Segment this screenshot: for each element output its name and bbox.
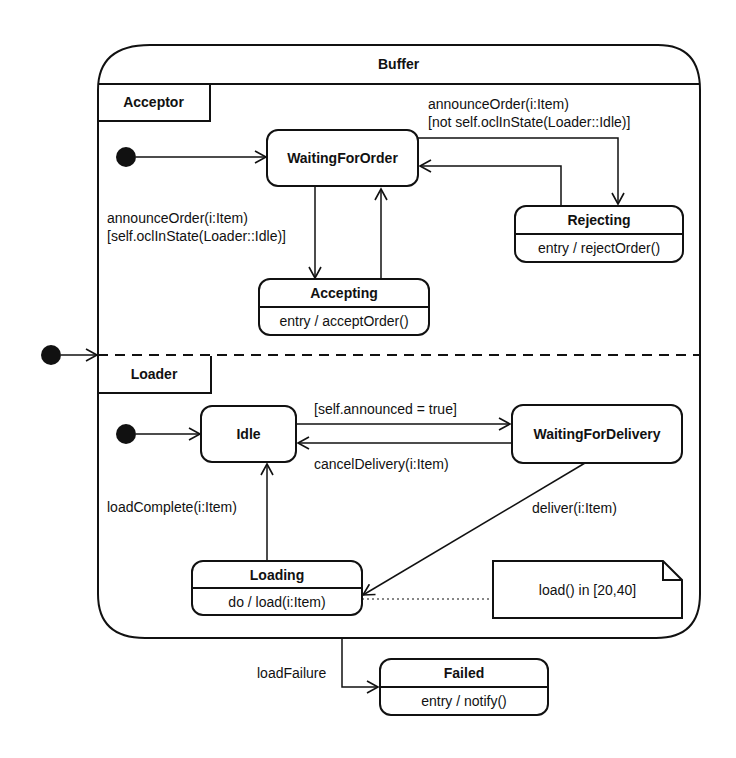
state-name: Loading [193, 562, 361, 587]
state-loading[interactable]: Loading do / load(i:Item) [191, 560, 363, 616]
transition-label-announced: [self.announced = true] [314, 400, 457, 418]
initial-loader [116, 424, 136, 444]
state-name: Accepting [260, 280, 428, 306]
state-name: WaitingForOrder [268, 131, 417, 185]
state-failed[interactable]: Failed entry / notify() [379, 658, 549, 716]
note-text: load() in [20,40] [493, 561, 682, 618]
initial-outer [41, 345, 61, 365]
state-rejecting[interactable]: Rejecting entry / rejectOrder() [514, 205, 684, 263]
state-name: WaitingForDelivery [513, 406, 681, 462]
transition-label-accept-event: announceOrder(i:Item) [107, 209, 248, 227]
transition-label-load-complete: loadComplete(i:Item) [107, 498, 237, 516]
transition-label-cancel-delivery: cancelDelivery(i:Item) [314, 455, 449, 473]
state-name: Idle [202, 407, 295, 461]
state-name: Failed [381, 660, 547, 686]
transition-label-accept-guard: [self.oclInState(Loader::Idle)] [107, 227, 286, 245]
state-do-activity: do / load(i:Item) [193, 587, 361, 614]
region-tab-loader: Loader [98, 356, 212, 394]
state-entry-activity: entry / notify() [381, 686, 547, 714]
buffer-title: Buffer [378, 55, 419, 73]
region-tab-acceptor: Acceptor [98, 84, 211, 122]
transition-label-deliver: deliver(i:Item) [532, 499, 617, 517]
state-waiting-for-order[interactable]: WaitingForOrder [266, 129, 419, 187]
state-waiting-for-delivery[interactable]: WaitingForDelivery [511, 404, 683, 464]
transition-label-reject-event: announceOrder(i:Item) [428, 95, 569, 113]
transition-label-load-failure: loadFailure [257, 664, 326, 682]
state-name: Rejecting [516, 207, 682, 233]
initial-acceptor [116, 147, 136, 167]
state-entry-activity: entry / acceptOrder() [260, 306, 428, 334]
state-idle[interactable]: Idle [200, 405, 297, 463]
state-accepting[interactable]: Accepting entry / acceptOrder() [258, 278, 430, 336]
transition-label-reject-guard: [not self.oclInState(Loader::Idle)] [428, 113, 630, 131]
state-entry-activity: entry / rejectOrder() [516, 233, 682, 261]
